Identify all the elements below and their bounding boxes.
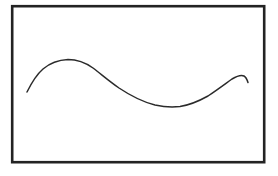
figure-container [0, 0, 278, 176]
sine-curve-figure [0, 0, 278, 176]
figure-background [0, 0, 278, 176]
